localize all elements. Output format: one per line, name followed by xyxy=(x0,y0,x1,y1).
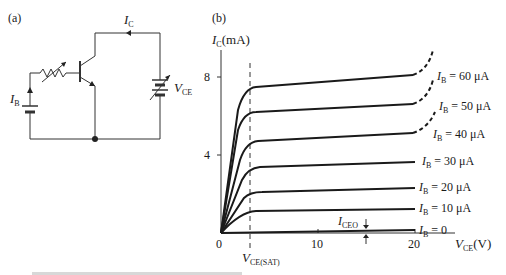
circuit-diagram xyxy=(22,30,170,142)
panel-b-label: (b) xyxy=(212,11,226,25)
vce-sat-label: VCE(SAT) xyxy=(242,250,280,267)
transistor-figure: (a) IC IB VCE (b) IC(mA) 8 4 0 10 20 VCE… xyxy=(0,0,506,275)
characteristic-curves xyxy=(221,50,435,233)
x-tick-10: 10 xyxy=(311,237,323,251)
ib-battery-icon xyxy=(22,106,38,112)
ground-node-icon xyxy=(92,136,98,142)
x-tick-0: 0 xyxy=(216,237,222,251)
curve-label-20: IB = 20 μA xyxy=(418,180,472,196)
npn-transistor-icon xyxy=(80,33,95,139)
panel-a-label: (a) xyxy=(8,11,21,25)
curve-label-60: IB = 60 μA xyxy=(436,69,490,85)
curve-ib-50 xyxy=(221,104,413,233)
vce-label: VCE xyxy=(174,80,192,97)
variable-resistor-icon xyxy=(40,62,80,82)
y-axis-label: IC(mA) xyxy=(211,32,250,49)
x-axis-label: VCE(V) xyxy=(455,236,491,253)
ic-arrow-icon xyxy=(126,30,131,36)
y-tick-4: 4 xyxy=(204,148,210,162)
ib-label: IB xyxy=(9,91,20,108)
curve-label-40: IB = 40 μA xyxy=(432,127,486,143)
ib-arrow-icon xyxy=(27,87,33,93)
curve-label-0: IB = 0 xyxy=(418,223,447,239)
iceo-label: ICEO xyxy=(337,214,358,230)
curve-label-10: IB = 10 μA xyxy=(418,201,472,217)
curve-label-30: IB = 30 μA xyxy=(421,154,475,170)
y-tick-8: 8 xyxy=(204,70,210,84)
x-tick-20: 20 xyxy=(408,237,420,251)
curve-label-50: IB = 50 μA xyxy=(438,99,492,115)
ic-label: IC xyxy=(123,12,134,29)
